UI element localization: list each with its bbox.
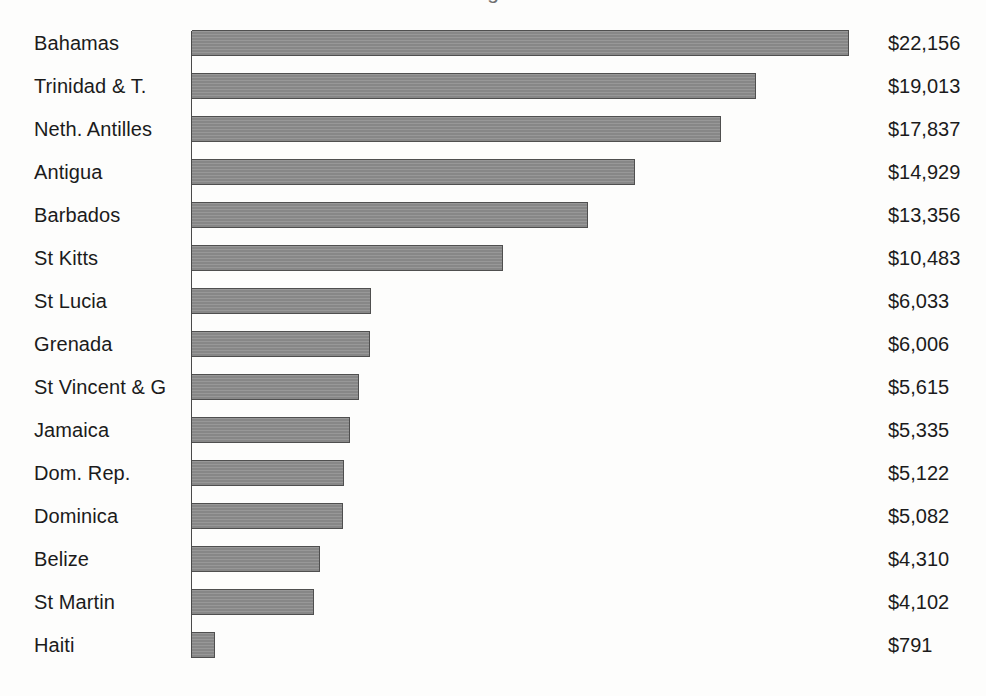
- clipped-title-text: g: [0, 0, 986, 4]
- category-label: Dom. Rep.: [34, 452, 131, 495]
- bar: [192, 30, 849, 56]
- value-label: $791: [888, 624, 933, 667]
- clipped-title-region: g: [0, 0, 986, 20]
- value-label: $4,102: [888, 581, 949, 624]
- bar: [192, 460, 344, 486]
- category-label: Trinidad & T.: [34, 65, 146, 108]
- category-label: Haiti: [34, 624, 75, 667]
- bar: [192, 374, 359, 400]
- value-label: $19,013: [888, 65, 960, 108]
- chart-row: Jamaica$5,335: [0, 409, 986, 452]
- value-label: $14,929: [888, 151, 960, 194]
- category-label: Grenada: [34, 323, 113, 366]
- chart-row: Dominica$5,082: [0, 495, 986, 538]
- category-label: Bahamas: [34, 22, 119, 65]
- value-label: $5,615: [888, 366, 949, 409]
- bar: [192, 503, 343, 529]
- bar: [192, 202, 588, 228]
- category-label: St Lucia: [34, 280, 107, 323]
- chart-row: St Kitts$10,483: [0, 237, 986, 280]
- value-label: $5,122: [888, 452, 949, 495]
- value-label: $22,156: [888, 22, 960, 65]
- category-label: Dominica: [34, 495, 118, 538]
- chart-row: St Martin$4,102: [0, 581, 986, 624]
- value-label: $6,006: [888, 323, 949, 366]
- value-label: $17,837: [888, 108, 960, 151]
- chart-row: Grenada$6,006: [0, 323, 986, 366]
- value-label: $5,082: [888, 495, 949, 538]
- chart-row: Barbados$13,356: [0, 194, 986, 237]
- value-label: $4,310: [888, 538, 949, 581]
- chart-row: Belize$4,310: [0, 538, 986, 581]
- chart-row: Antigua$14,929: [0, 151, 986, 194]
- bar-rows-container: Bahamas$22,156Trinidad & T.$19,013Neth. …: [0, 22, 986, 667]
- category-label: Antigua: [34, 151, 103, 194]
- category-label: Neth. Antilles: [34, 108, 152, 151]
- bar: [192, 331, 370, 357]
- bar: [192, 73, 756, 99]
- category-label: St Vincent & G: [34, 366, 166, 409]
- bar-chart-figure: g Bahamas$22,156Trinidad & T.$19,013Neth…: [0, 0, 986, 696]
- value-label: $5,335: [888, 409, 949, 452]
- bar: [192, 245, 503, 271]
- value-label: $6,033: [888, 280, 949, 323]
- category-label: Belize: [34, 538, 89, 581]
- category-label: St Martin: [34, 581, 115, 624]
- category-label: Barbados: [34, 194, 120, 237]
- category-label: Jamaica: [34, 409, 109, 452]
- chart-row: St Lucia$6,033: [0, 280, 986, 323]
- bar: [192, 589, 314, 615]
- bar: [192, 116, 721, 142]
- chart-row: Neth. Antilles$17,837: [0, 108, 986, 151]
- bar: [192, 632, 215, 658]
- bar: [192, 288, 371, 314]
- chart-row: Dom. Rep.$5,122: [0, 452, 986, 495]
- value-label: $10,483: [888, 237, 960, 280]
- chart-row: St Vincent & G$5,615: [0, 366, 986, 409]
- bar: [192, 546, 320, 572]
- chart-row: Bahamas$22,156: [0, 22, 986, 65]
- chart-row: Haiti$791: [0, 624, 986, 667]
- value-label: $13,356: [888, 194, 960, 237]
- category-label: St Kitts: [34, 237, 98, 280]
- chart-row: Trinidad & T.$19,013: [0, 65, 986, 108]
- bar: [192, 159, 635, 185]
- bar: [192, 417, 350, 443]
